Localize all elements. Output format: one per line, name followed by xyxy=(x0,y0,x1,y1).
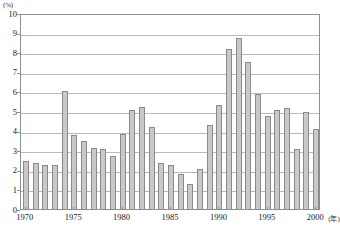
bar xyxy=(255,94,261,209)
bar xyxy=(91,148,97,209)
bar xyxy=(71,135,77,209)
bar xyxy=(23,161,29,209)
y-tick-label: 2 xyxy=(1,166,17,175)
bar xyxy=(149,127,155,209)
bar xyxy=(62,91,68,209)
bar xyxy=(274,110,280,209)
bar xyxy=(158,163,164,209)
bar xyxy=(187,184,193,209)
bar xyxy=(265,116,271,209)
bars-layer xyxy=(21,15,319,209)
y-tick-label: 9 xyxy=(1,29,17,38)
bar xyxy=(226,49,232,209)
x-tick-mark xyxy=(25,207,26,210)
x-tick-mark xyxy=(73,207,74,210)
bar xyxy=(52,165,58,209)
y-tick-label: 4 xyxy=(1,127,17,136)
x-tick-label: 2000 xyxy=(307,212,324,222)
bar xyxy=(284,108,290,209)
bar xyxy=(168,165,174,209)
x-tick-mark xyxy=(267,207,268,210)
x-axis-tick-group: (年) 1970197519801985199019952000 xyxy=(20,210,320,232)
x-tick-mark xyxy=(315,207,316,210)
x-axis-unit-label: (年) xyxy=(328,214,340,224)
bar xyxy=(100,149,106,209)
bar xyxy=(42,165,48,209)
x-tick-mark xyxy=(170,207,171,210)
plot-area xyxy=(20,14,320,210)
y-axis-unit-label: (%) xyxy=(3,1,13,9)
bar xyxy=(216,105,222,209)
x-tick-mark xyxy=(122,207,123,210)
bar xyxy=(207,125,213,209)
bar xyxy=(120,134,126,209)
y-axis-tick-group: 012345678910 xyxy=(0,14,17,210)
y-tick-label: 0 xyxy=(1,206,17,215)
x-tick-label: 1995 xyxy=(258,212,275,222)
y-tick-label: 7 xyxy=(1,68,17,77)
y-tick-label: 6 xyxy=(1,88,17,97)
bar xyxy=(110,156,116,209)
bar xyxy=(197,169,203,209)
bar xyxy=(139,107,145,209)
bar xyxy=(245,62,251,209)
x-tick-label: 1990 xyxy=(210,212,227,222)
x-tick-mark xyxy=(218,207,219,210)
x-tick-label: 1980 xyxy=(113,212,130,222)
bar xyxy=(294,149,300,209)
y-tick-label: 8 xyxy=(1,49,17,58)
y-tick-label: 10 xyxy=(1,10,17,19)
bar xyxy=(178,174,184,209)
bar xyxy=(236,38,242,210)
bar xyxy=(303,112,309,209)
y-tick-label: 3 xyxy=(1,147,17,156)
y-tick-label: 5 xyxy=(1,108,17,117)
bar xyxy=(313,129,319,209)
x-tick-label: 1985 xyxy=(162,212,179,222)
x-tick-label: 1975 xyxy=(65,212,82,222)
y-tick-label: 1 xyxy=(1,186,17,195)
bar xyxy=(129,110,135,209)
x-tick-label: 1970 xyxy=(16,212,33,222)
bar xyxy=(33,163,39,209)
bar xyxy=(81,141,87,209)
